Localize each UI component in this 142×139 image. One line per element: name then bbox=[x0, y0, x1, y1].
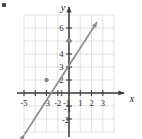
x-tick-label: 3 bbox=[101, 98, 105, 108]
data-point bbox=[44, 78, 48, 82]
x-tick-label: 2 bbox=[89, 98, 93, 108]
coordinate-plane-chart: -5 -3 -2 -1 1 2 3 6 4 3 2 1 -1 -2 y x bbox=[0, 0, 142, 139]
x-axis-label: x bbox=[129, 93, 135, 104]
axes bbox=[17, 7, 124, 137]
x-tick-label: 1 bbox=[78, 98, 82, 108]
x-tick-label: -2 bbox=[54, 98, 61, 108]
graph-figure: -5 -3 -2 -1 1 2 3 6 4 3 2 1 -1 -2 y x bbox=[0, 0, 142, 139]
data-point bbox=[67, 39, 72, 44]
y-axis-label: y bbox=[60, 2, 66, 13]
x-tick-label: -5 bbox=[20, 98, 27, 108]
y-tick-label: 1 bbox=[59, 88, 63, 98]
y-tick-label: 3 bbox=[59, 62, 63, 72]
y-tick-label: 6 bbox=[59, 23, 63, 33]
y-tick-label: -2 bbox=[62, 115, 69, 125]
y-tick-label: -1 bbox=[64, 104, 71, 114]
